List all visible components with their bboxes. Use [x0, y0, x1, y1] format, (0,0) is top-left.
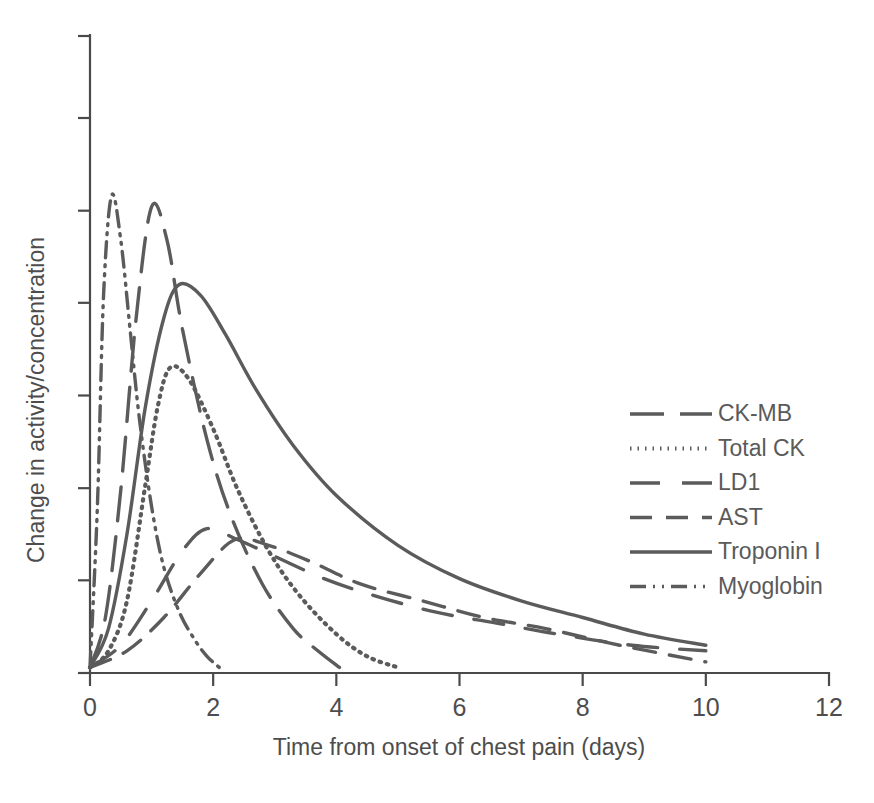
chart-legend: CK-MBTotal CKLD1ASTTroponin IMyoglobin [630, 400, 823, 599]
y-axis-ticks [78, 36, 90, 673]
series-curves [90, 194, 706, 667]
x-axis-tick-labels: 024681012 [83, 693, 843, 721]
x-axis-ticks [90, 673, 829, 686]
legend-label-total-ck: Total CK [718, 435, 806, 461]
x-axis-title: Time from onset of chest pain (days) [273, 734, 645, 760]
x-tick-label: 2 [206, 693, 220, 721]
series-curve-troponin-i [90, 283, 706, 667]
chart-figure: 024681012 Time from onset of chest pain … [0, 0, 874, 803]
x-tick-label: 8 [576, 693, 590, 721]
x-tick-label: 0 [83, 693, 97, 721]
x-tick-label: 10 [692, 693, 720, 721]
x-tick-label: 6 [453, 693, 467, 721]
legend-label-troponin-i: Troponin I [718, 538, 821, 564]
y-axis-title: Change in activity/concentration [23, 237, 49, 563]
legend-label-ast: AST [718, 504, 763, 530]
x-tick-label: 4 [329, 693, 343, 721]
chart-plot-area: 024681012 Time from onset of chest pain … [0, 0, 874, 803]
legend-label-ld1: LD1 [718, 469, 760, 495]
legend-label-myoglobin: Myoglobin [718, 573, 823, 599]
legend-label-ck-mb: CK-MB [718, 400, 792, 426]
x-tick-label: 12 [815, 693, 843, 721]
